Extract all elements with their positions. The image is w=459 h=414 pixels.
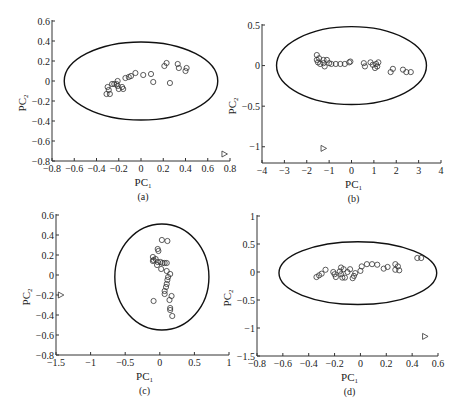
y-tick-label: 0.6	[42, 210, 55, 221]
sample-point-marker	[167, 80, 172, 85]
y-tick-label: −0.4	[36, 310, 54, 321]
sample-point-marker	[364, 262, 369, 267]
sample-point-marker	[167, 297, 172, 302]
y-axis-label: PC2	[226, 97, 240, 114]
sample-point-marker	[169, 293, 174, 298]
y-tick-label: 0.4	[42, 230, 55, 241]
pca-scatter-figure: 0.60.40.20−0.2−0.4−0.6−0.8−0.8−0.6−0.4−0…	[0, 0, 459, 414]
panel-label: (b)	[348, 193, 360, 205]
x-tick-label: 0.5	[188, 357, 201, 368]
sample-point-marker	[154, 262, 159, 267]
outlier-triangle-marker	[321, 145, 327, 151]
x-tick-label: −1	[85, 357, 96, 368]
x-tick-label: 1	[371, 165, 376, 176]
sample-point-marker	[321, 61, 326, 66]
panel-d: 10.50−0.5−1−1.5−0.8−0.6−0.4−0.200.20.40.…	[221, 211, 444, 399]
x-tick-label: 0	[157, 357, 162, 368]
panel-label: (d)	[344, 386, 356, 398]
x-tick-label: 4	[439, 165, 444, 176]
x-tick-label: 0.6	[202, 163, 215, 174]
sample-point-marker	[162, 291, 167, 296]
panel-a: 0.60.40.20−0.2−0.4−0.6−0.8−0.8−0.6−0.4−0…	[16, 16, 236, 204]
x-tick-label: −0.5	[116, 357, 134, 368]
sample-point-marker	[369, 262, 374, 267]
x-axis-label: PC1	[136, 370, 153, 384]
y-tick-label: 0.2	[42, 250, 55, 261]
panel-c: 0.60.40.20−0.2−0.4−0.6−0.8−1.5−1−0.500.5…	[20, 210, 232, 398]
sample-point-marker	[322, 64, 327, 69]
x-tick-label: −3	[279, 165, 290, 176]
x-tick-label: −0.8	[248, 358, 266, 369]
x-tick-label: 0	[358, 358, 363, 369]
sample-point-marker	[323, 267, 328, 272]
y-tick-label: 0.5	[243, 239, 256, 250]
y-tick-label: 0	[49, 270, 54, 281]
y-tick-label: −0.6	[32, 136, 50, 147]
confidence-ellipse	[64, 42, 218, 120]
sample-point-marker	[123, 75, 128, 80]
x-tick-label: −0.4	[300, 358, 318, 369]
sample-point-marker	[133, 70, 138, 75]
x-tick-label: 0	[349, 165, 354, 176]
panel-label: (c)	[139, 385, 150, 397]
panel-label: (a)	[137, 191, 148, 203]
sample-point-marker	[362, 64, 367, 69]
y-tick-label: 0	[255, 60, 260, 71]
x-tick-label: 0.8	[224, 163, 237, 174]
sample-point-marker	[361, 61, 366, 66]
sample-point-marker	[148, 71, 153, 76]
y-tick-label: 0	[45, 76, 50, 87]
y-tick-label: −0.5	[242, 101, 260, 112]
panel-b: 0.50−0.5−1−4−3−2−101234PC1(b)PC2	[226, 20, 444, 206]
x-tick-label: −0.4	[87, 163, 105, 174]
y-tick-label: −0.2	[36, 290, 54, 301]
y-tick-label: 0	[250, 267, 255, 278]
outlier-triangle-marker	[423, 333, 429, 339]
y-tick-label: −1	[249, 141, 260, 152]
y-tick-label: 0.2	[38, 56, 51, 67]
sample-point-marker	[141, 72, 146, 77]
x-tick-label: −1	[324, 165, 335, 176]
x-tick-label: −2	[301, 165, 312, 176]
x-axis-label: PC1	[345, 178, 362, 192]
confidence-ellipse	[277, 27, 427, 105]
y-tick-label: −0.4	[32, 116, 50, 127]
y-axis-label: PC2	[16, 94, 30, 111]
y-tick-label: 0.4	[38, 36, 51, 47]
sample-point-marker	[164, 268, 169, 273]
sample-point-marker	[375, 262, 380, 267]
sample-point-marker	[184, 65, 189, 70]
x-tick-label: −1.5	[47, 357, 65, 368]
x-tick-label: −0.2	[110, 163, 128, 174]
y-tick-label: 0.5	[248, 20, 261, 31]
figure: 0.60.40.20−0.2−0.4−0.6−0.8−0.8−0.6−0.4−0…	[0, 0, 459, 414]
sample-point-marker	[159, 266, 164, 271]
y-tick-label: −0.6	[36, 330, 54, 341]
x-tick-label: 0.4	[179, 163, 192, 174]
x-tick-label: 0.2	[380, 358, 393, 369]
x-tick-label: −0.6	[274, 358, 292, 369]
x-tick-label: 1	[227, 357, 232, 368]
x-axis-label: PC1	[135, 176, 152, 190]
sample-point-marker	[419, 255, 424, 260]
sample-point-marker	[159, 237, 164, 242]
x-tick-label: 3	[416, 165, 421, 176]
sample-point-marker	[115, 78, 120, 83]
y-tick-label: 1	[250, 211, 255, 222]
x-tick-label: −0.6	[65, 163, 83, 174]
y-axis-label: PC2	[221, 289, 235, 306]
x-tick-label: 0.2	[157, 163, 170, 174]
sample-point-marker	[151, 298, 156, 303]
x-axis-label: PC1	[341, 371, 358, 385]
x-tick-label: 0	[139, 163, 144, 174]
y-axis-label: PC2	[20, 288, 34, 305]
x-tick-label: 2	[394, 165, 399, 176]
x-tick-label: −0.2	[326, 358, 344, 369]
x-tick-label: 0.6	[432, 358, 445, 369]
outlier-triangle-marker	[222, 151, 228, 157]
sample-point-marker	[183, 68, 188, 73]
x-tick-label: −4	[257, 165, 268, 176]
x-tick-label: −0.8	[43, 163, 61, 174]
y-tick-label: −0.2	[32, 96, 50, 107]
outlier-triangle-marker	[58, 292, 64, 298]
